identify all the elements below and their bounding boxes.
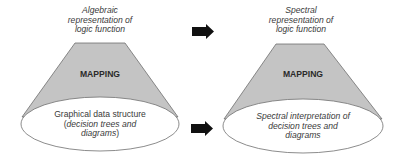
left-mapping-label: MAPPING (70, 69, 130, 79)
paren-close: ) (116, 128, 119, 138)
left-base-italic-text: decision trees and (67, 119, 137, 129)
right-top-label: Spectral representation of logic functio… (245, 6, 357, 35)
left-top-label-line: logic function (44, 25, 156, 35)
left-base-italic-text: diagrams (81, 128, 116, 138)
top-arrow-icon (192, 24, 214, 39)
left-base-label-line3: diagrams) (30, 129, 170, 139)
left-top-label: Algebraic representation of logic functi… (44, 6, 156, 35)
right-base-label-line: diagrams (233, 131, 373, 141)
left-base-label: Graphical data structure (decision trees… (30, 110, 170, 139)
bottom-arrow-icon (191, 121, 213, 136)
right-base-label: Spectral interpretation of decision tree… (233, 112, 373, 141)
right-mapping-label: MAPPING (273, 69, 333, 79)
right-top-label-line: logic function (245, 25, 357, 35)
